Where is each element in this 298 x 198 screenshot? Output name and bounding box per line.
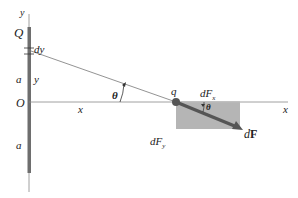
diagram-canvas: y Q dy a y O a x x θ q dFx θ dFy dF [0, 0, 298, 198]
point-charge-dot [172, 98, 180, 106]
x-distance-label: x [78, 104, 83, 115]
dy-label: dy [34, 44, 44, 55]
a-upper-label: a [16, 74, 22, 85]
a-lower-label: a [16, 140, 22, 151]
origin-label: O [16, 97, 25, 109]
point-charge-label: q [171, 86, 177, 97]
diagram-graphics [0, 0, 298, 198]
distance-line [31, 51, 176, 102]
dFy-base: dF [150, 135, 162, 147]
dFx-subscript: x [212, 94, 215, 102]
dF-vector-symbol: F [250, 127, 257, 141]
y-distance-label: y [34, 74, 39, 85]
theta-main-label: θ [112, 90, 118, 101]
dF-label: dF [244, 128, 257, 140]
theta-arc [120, 84, 124, 102]
dFy-subscript: y [162, 142, 165, 150]
charge-label-Q: Q [14, 26, 23, 39]
x-axis-label: x [283, 104, 288, 115]
y-axis-label: y [20, 8, 24, 18]
theta-arc-arrow [122, 82, 126, 87]
small-theta-label: θ [206, 103, 211, 112]
dFy-label: dFy [150, 136, 165, 150]
charged-rod [28, 27, 32, 173]
dFx-label: dFx [200, 88, 215, 102]
dFx-base: dF [200, 87, 212, 99]
